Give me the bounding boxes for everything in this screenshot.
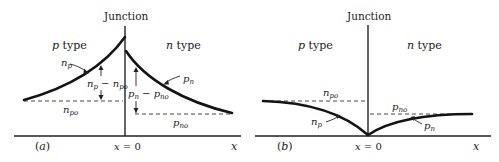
panel-a: Junction p type n type np pn np − npo pn… (14, 10, 241, 153)
junction-label: Junction (346, 10, 392, 22)
arrowhead-icon (134, 67, 139, 72)
excess-pn-label: pn − pno (128, 88, 169, 101)
panel-b: Junction p type n type npo pno np pn x =… (255, 10, 491, 153)
arrowhead-icon (99, 95, 104, 100)
np-label: np (61, 57, 72, 70)
x-axis-label: x (473, 140, 480, 153)
npo-label: npo (323, 87, 338, 100)
x-axis-label: x (231, 140, 238, 153)
arrowhead-icon (99, 65, 104, 70)
p-type-label: p type (298, 39, 333, 52)
pn-curve (368, 114, 472, 135)
excess-np-label: np − npo (87, 78, 128, 91)
junction-label: Junction (103, 10, 149, 22)
pno-label: pno (392, 101, 407, 114)
n-type-label: n type (407, 39, 442, 52)
pn-junction-diagram: Junction p type n type np pn np − npo pn… (0, 0, 499, 162)
p-type-label: p type (52, 39, 87, 52)
arrowhead-icon (163, 80, 169, 85)
pno-label: pno (173, 117, 188, 130)
np-label: np (311, 116, 322, 129)
arrowhead-icon (134, 108, 139, 113)
caption-a: (a) (35, 140, 50, 153)
npo-label: npo (63, 104, 78, 117)
origin-label: x = 0 (114, 141, 141, 152)
pn-label: pn (424, 120, 435, 133)
pn-label: pn (183, 73, 194, 86)
pn-curve (126, 51, 232, 113)
n-type-label: n type (166, 39, 201, 52)
caption-b: (b) (277, 140, 293, 153)
origin-label: x = 0 (355, 141, 382, 152)
